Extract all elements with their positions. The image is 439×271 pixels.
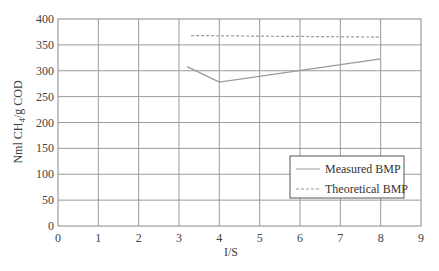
chart: 0123456789 050100150200250300350400 I/S … xyxy=(0,0,439,271)
y-tick-label: 150 xyxy=(36,141,54,155)
x-tick-label: 5 xyxy=(257,231,263,245)
x-tick-label: 3 xyxy=(176,231,182,245)
legend-measured-label: Measured BMP xyxy=(325,162,401,176)
y-axis-label: Nml CH4/g COD xyxy=(11,80,27,164)
y-tick-label: 200 xyxy=(36,116,54,130)
x-axis-label: I/S xyxy=(224,245,238,259)
x-tick-label: 0 xyxy=(55,231,61,245)
legend: Measured BMP Theoretical BMP xyxy=(290,156,408,198)
y-tick-label: 100 xyxy=(36,167,54,181)
x-tick-label: 2 xyxy=(136,231,142,245)
y-tick-label: 250 xyxy=(36,90,54,104)
y-tick-label: 400 xyxy=(36,12,54,26)
x-tick-label: 8 xyxy=(378,231,384,245)
x-tick-label: 1 xyxy=(95,231,101,245)
x-tick-label: 7 xyxy=(337,231,343,245)
y-tick-label: 300 xyxy=(36,64,54,78)
x-tick-label: 6 xyxy=(297,231,303,245)
y-tick-label: 350 xyxy=(36,38,54,52)
x-tick-label: 9 xyxy=(418,231,424,245)
legend-theoretical-label: Theoretical BMP xyxy=(325,182,408,196)
x-tick-label: 4 xyxy=(216,231,222,245)
y-tick-label: 0 xyxy=(48,219,54,233)
y-tick-label: 50 xyxy=(42,193,54,207)
y-axis-ticks: 050100150200250300350400 xyxy=(36,12,54,233)
x-axis-ticks: 0123456789 xyxy=(55,231,424,245)
data-series xyxy=(187,36,381,83)
